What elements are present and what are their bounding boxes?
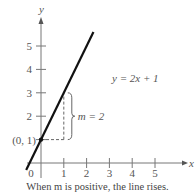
y-axis-arrow-icon xyxy=(39,17,44,24)
y-tick-label: 4 xyxy=(27,63,33,75)
x-tick-label: 1 xyxy=(61,167,67,179)
origin-label: 0 xyxy=(28,167,34,179)
series-line xyxy=(26,32,93,170)
y-axis-label: y xyxy=(38,3,44,15)
y-tick-label: 5 xyxy=(27,40,33,52)
data-point xyxy=(39,137,43,141)
x-axis-arrow-icon xyxy=(182,161,188,166)
y-tick-label: 3 xyxy=(27,87,33,99)
chart: xy1234523450m = 2y = 2x + 1(0, 1) xyxy=(0,0,195,196)
y-tick-label: 2 xyxy=(27,110,33,122)
x-tick-label: 4 xyxy=(129,167,135,179)
x-tick-label: 3 xyxy=(107,167,113,179)
caption: When m is positive, the line rises. xyxy=(0,181,195,192)
rise-brace xyxy=(68,93,75,140)
x-axis-label: x xyxy=(188,157,194,169)
x-tick-label: 2 xyxy=(84,167,90,179)
rise-label: m = 2 xyxy=(78,110,105,122)
point-label: (0, 1) xyxy=(12,134,36,147)
equation-label: y = 2x + 1 xyxy=(111,72,159,84)
x-tick-label: 5 xyxy=(152,167,158,179)
